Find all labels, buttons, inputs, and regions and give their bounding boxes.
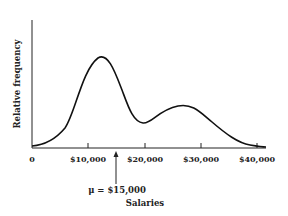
x-axis-label: Salaries: [126, 198, 164, 208]
x-ticks: [88, 143, 257, 148]
x-tick-label-10000: $10,000: [70, 154, 107, 164]
chart-svg: 0 $10,000 $20,000 $30,000 $40,000 μ = $1…: [0, 0, 288, 216]
x-tick-label-40000: $40,000: [239, 154, 276, 164]
mean-arrow: [114, 151, 119, 184]
mean-annotation: μ = $15,000: [88, 185, 146, 196]
x-tick-label-30000: $30,000: [183, 154, 220, 164]
density-curve: [32, 57, 266, 147]
x-tick-label-20000: $20,000: [127, 154, 164, 164]
y-axis-label: Relative frequency: [12, 38, 22, 128]
x-tick-label-0: 0: [29, 154, 35, 164]
